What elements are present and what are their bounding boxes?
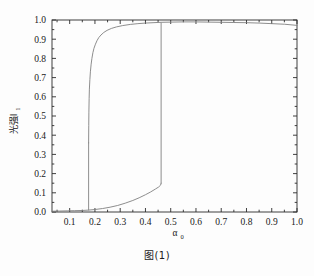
x-tick-label: 1.0	[291, 217, 303, 227]
chart-plot-area: 0.10.20.30.40.50.60.70.80.91.0 0.00.10.2…	[0, 0, 314, 245]
x-axis-title-text: α	[173, 228, 178, 238]
y-tick-label: 0.5	[34, 111, 46, 121]
y-axis-title: 光强I 1	[8, 107, 21, 134]
y-axis-title-subscript: 1	[14, 107, 21, 110]
y-tick-label: 0.4	[34, 131, 46, 141]
y-tick-label: 0.6	[34, 92, 46, 102]
y-tick-label: 0.9	[34, 35, 46, 45]
x-tick-label: 0.5	[165, 217, 177, 227]
curve-lower-branch	[52, 183, 161, 211]
x-tick-label: 0.8	[241, 217, 253, 227]
y-tick-label: 0.1	[34, 188, 46, 198]
x-axis-tick-labels: 0.10.20.30.40.50.60.70.80.91.0	[64, 217, 303, 227]
x-tick-label: 0.2	[89, 217, 101, 227]
y-tick-label: 0.0	[34, 207, 46, 217]
y-axis-title-text: 光强I	[8, 114, 19, 135]
y-tick-label: 0.7	[34, 73, 46, 83]
x-axis-title-subscript: 0	[180, 233, 183, 240]
x-tick-label: 0.9	[266, 217, 278, 227]
y-axis-tick-labels: 0.00.10.20.30.40.50.60.70.80.91.0	[34, 15, 46, 217]
x-tick-label: 0.7	[215, 217, 227, 227]
x-axis-minor-ticks	[57, 20, 284, 212]
hysteresis-curve	[52, 22, 297, 211]
y-tick-label: 0.2	[34, 169, 46, 179]
hysteresis-chart-svg: 0.10.20.30.40.50.60.70.80.91.0 0.00.10.2…	[0, 0, 314, 245]
x-tick-label: 0.3	[114, 217, 126, 227]
figure-container: 0.10.20.30.40.50.60.70.80.91.0 0.00.10.2…	[0, 0, 314, 276]
x-axis-title: α 0	[173, 228, 184, 240]
x-tick-label: 0.4	[140, 217, 152, 227]
y-tick-label: 0.3	[34, 150, 46, 160]
figure-caption: 图(1)	[0, 247, 314, 262]
x-tick-label: 0.1	[64, 217, 76, 227]
y-tick-label: 1.0	[34, 15, 46, 25]
x-tick-label: 0.6	[190, 217, 202, 227]
curve-upper-branch	[89, 22, 297, 143]
x-axis-major-ticks	[70, 20, 297, 212]
y-tick-label: 0.8	[34, 54, 46, 64]
